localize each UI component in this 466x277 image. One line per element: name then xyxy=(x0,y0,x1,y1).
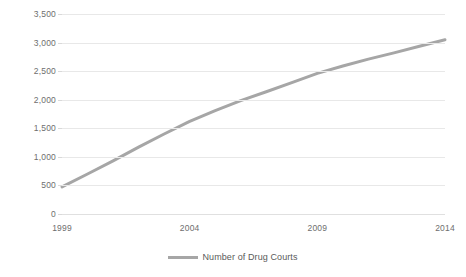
legend-label: Number of Drug Courts xyxy=(202,253,297,262)
gridline xyxy=(62,100,445,101)
y-axis-tick-label: 500 xyxy=(10,181,56,190)
chart-legend: Number of Drug Courts xyxy=(0,249,466,265)
y-axis-tick xyxy=(58,214,62,215)
x-axis-tick-label: 2014 xyxy=(415,224,466,233)
y-axis: 05001,0001,5002,0002,5003,0003,500 xyxy=(8,14,56,214)
line-chart: 05001,0001,5002,0002,5003,0003,500 19992… xyxy=(0,0,466,277)
gridline xyxy=(62,71,445,72)
y-axis-tick xyxy=(58,43,62,44)
x-axis: 1999200420092014 xyxy=(62,224,445,238)
plot-area xyxy=(62,14,445,214)
y-axis-tick-label: 2,500 xyxy=(10,67,56,76)
y-axis-tick xyxy=(58,185,62,186)
y-axis-tick xyxy=(58,100,62,101)
y-axis-tick xyxy=(58,128,62,129)
series-line xyxy=(62,40,445,187)
y-axis-tick-label: 2,000 xyxy=(10,96,56,105)
y-axis-tick-label: 1,500 xyxy=(10,124,56,133)
y-axis-tick-label: 1,000 xyxy=(10,153,56,162)
gridline xyxy=(62,128,445,129)
y-axis-tick-label: 3,500 xyxy=(10,10,56,19)
x-axis-tick-label: 1999 xyxy=(32,224,92,233)
gridline xyxy=(62,157,445,158)
gridline xyxy=(62,14,445,15)
y-axis-tick xyxy=(58,14,62,15)
y-axis-tick xyxy=(58,157,62,158)
x-axis-tick-label: 2004 xyxy=(160,224,220,233)
series-layer xyxy=(62,14,445,214)
gridline xyxy=(62,185,445,186)
x-axis-tick-label: 2009 xyxy=(287,224,347,233)
gridline xyxy=(62,43,445,44)
legend-line-swatch xyxy=(168,256,198,259)
gridline xyxy=(62,214,445,215)
y-axis-tick-label: 3,000 xyxy=(10,39,56,48)
y-axis-tick xyxy=(58,71,62,72)
y-axis-tick-label: 0 xyxy=(10,210,56,219)
